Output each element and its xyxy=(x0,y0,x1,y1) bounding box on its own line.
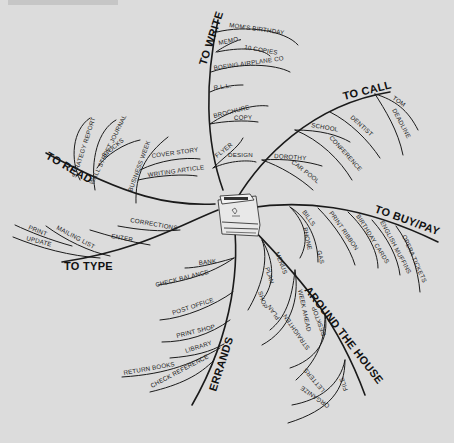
branch-item: BUSINESS WEEK xyxy=(126,139,151,193)
branch-item: 10 COPIES xyxy=(244,43,278,56)
branch-item: PLAN xyxy=(265,304,280,322)
branch-item: CHECK BALANCE xyxy=(155,268,210,288)
branch-item: R.L.L. xyxy=(213,82,232,91)
branch-item: GAS xyxy=(316,250,326,265)
branch-title: TO TYPE xyxy=(64,260,113,272)
branch-item: BILLS xyxy=(301,209,317,228)
branch-item: PLAN xyxy=(264,266,276,284)
branch-item: MENUS xyxy=(274,251,289,275)
branch-item: COPY xyxy=(234,113,253,121)
mind-map: TO WRITE MOM'S BIRTHDAY MEMO 10 COPIES B… xyxy=(0,0,454,443)
header-fragment xyxy=(8,0,118,5)
branch-item: DEADLINE xyxy=(391,107,412,139)
branch-to-call: TO CALL TOM DEADLINE DENTIST SCHOOL CONF… xyxy=(236,78,418,200)
branch-title: TO CALL xyxy=(342,78,393,102)
branch-item: DESIGN xyxy=(228,151,253,158)
branch-item: UPDATE xyxy=(26,234,53,247)
branch-item: ENTER xyxy=(111,232,134,243)
notepad-icon xyxy=(218,194,260,236)
branch-to-buy-pay: TO BUY/PAY BILLS PHONE GAS PRINT RIBBON … xyxy=(248,203,442,292)
branch-item: BOEING AIRPLANE CO xyxy=(213,54,284,71)
branch-title: TO READ xyxy=(44,149,95,185)
branch-item: FILE xyxy=(338,377,349,392)
branch-to-write: TO WRITE MOM'S BIRTHDAY MEMO 10 COPIES B… xyxy=(196,10,298,190)
branch-item: COVER STORY xyxy=(151,146,199,159)
branch-item: DENTIST xyxy=(349,114,374,138)
branch-item: LIBRARY xyxy=(184,339,213,354)
branch-item: CHECK REFERENCE xyxy=(149,352,209,388)
branch-to-type: TO TYPE CORRECTIONS ENTER MAILING LIST P… xyxy=(13,210,218,272)
branch-to-read: TO READ STRATEGY REPORT WALL STREET JOUR… xyxy=(44,113,215,204)
branch-item: MOM'S BIRTHDAY xyxy=(229,21,285,36)
branch-item: BANK xyxy=(198,257,217,266)
branch-item: PRINT SHOP xyxy=(176,323,216,339)
